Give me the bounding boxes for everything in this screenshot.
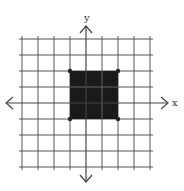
vertex-point	[116, 69, 120, 73]
vertex-point	[68, 69, 72, 73]
vertex-point	[68, 117, 72, 121]
vertex-point	[116, 117, 120, 121]
coordinate-plane: x y	[0, 0, 184, 191]
x-axis-label: x	[172, 97, 178, 108]
shaded-square	[70, 71, 118, 119]
y-axis-label: y	[83, 12, 90, 23]
